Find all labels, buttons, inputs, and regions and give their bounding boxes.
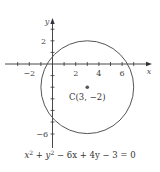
x-tick-label: 4 — [96, 69, 101, 78]
x-tick-label: 2 — [73, 69, 78, 78]
coordinate-plane: −2 2 4 6 x 2 −6 y C(3, −2) — [0, 0, 160, 150]
y-axis: 2 −6 y — [36, 17, 54, 148]
y-axis-label: y — [44, 17, 50, 26]
x-tick-label: 6 — [120, 69, 125, 78]
center-point-dot — [86, 85, 90, 89]
x-axis-arrow-icon — [146, 62, 152, 66]
equation-plus: + — [33, 150, 46, 160]
y-axis-arrow-icon — [50, 18, 54, 24]
center-point-label: C(3, −2) — [69, 92, 105, 102]
x-tick-label: −2 — [23, 69, 35, 78]
circle-graph-figure: −2 2 4 6 x 2 −6 y C(3, −2) — [0, 0, 160, 172]
circle-equation: x2 + y2 − 6x + 4y − 3 = 0 — [0, 150, 160, 160]
y-tick-label: −6 — [36, 130, 48, 139]
equation-rest: − 6x + 4y − 3 = 0 — [54, 150, 135, 160]
x-axis-label: x — [147, 67, 152, 76]
y-tick-label: 2 — [41, 37, 46, 46]
